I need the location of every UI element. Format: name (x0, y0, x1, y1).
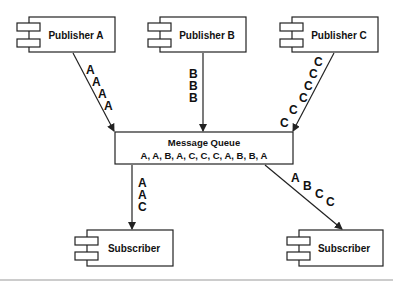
component-tab-icon (75, 237, 98, 245)
svg-text:C: C (138, 200, 147, 214)
component-tab-icon (75, 252, 98, 260)
queue-title: Message Queue (168, 137, 240, 148)
svg-text:C: C (315, 187, 324, 201)
svg-text:B: B (189, 91, 198, 105)
svg-text:B: B (303, 179, 312, 193)
publisher-b-label: Publisher B (179, 30, 235, 41)
component-tab-icon (280, 23, 303, 31)
publisher-c-messages: C C C C C C (280, 55, 323, 130)
component-tab-icon (17, 23, 40, 31)
component-tab-icon (148, 39, 171, 47)
queue-contents: A, A, B, A, C, C, C, A, B, B, A (141, 150, 268, 161)
subscriber-1-label: Subscriber (108, 243, 160, 254)
svg-text:C: C (326, 195, 335, 209)
component-tab-icon (287, 237, 310, 245)
subscriber-2-messages: A B C C (291, 171, 335, 209)
svg-text:A: A (291, 171, 300, 185)
publisher-a-messages: A A A A (86, 63, 113, 113)
publisher-b-messages: B B B (189, 67, 198, 105)
publisher-a-label: Publisher A (48, 30, 103, 41)
svg-text:C: C (289, 103, 298, 117)
component-tab-icon (287, 252, 310, 260)
component-tab-icon (280, 39, 303, 47)
subscriber-1-component: Subscriber (75, 230, 173, 266)
publisher-b-component: Publisher B (148, 17, 246, 52)
component-tab-icon (17, 39, 40, 47)
message-queue: Message Queue A, A, B, A, C, C, C, A, B,… (115, 132, 293, 164)
subscriber-2-label: Subscriber (318, 243, 370, 254)
svg-text:A: A (104, 99, 113, 113)
svg-text:C: C (299, 91, 308, 105)
subscriber-2-component: Subscriber (287, 230, 383, 266)
pub-sub-diagram: Publisher A Publisher B Publisher C A A … (0, 0, 395, 284)
publisher-a-component: Publisher A (17, 17, 115, 52)
publisher-c-component: Publisher C (280, 17, 378, 52)
publisher-c-label: Publisher C (311, 30, 367, 41)
svg-text:C: C (280, 116, 289, 130)
component-tab-icon (148, 23, 171, 31)
subscriber-1-messages: A A C (138, 176, 147, 214)
